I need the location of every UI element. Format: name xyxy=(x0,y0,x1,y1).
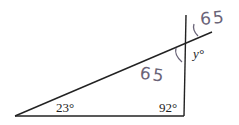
triangle-diagram: 23° 92° y° 65 65 xyxy=(0,0,239,125)
handwritten-arc-outer xyxy=(194,24,199,36)
vertical-line xyxy=(184,15,186,116)
angle-label-y: y° xyxy=(191,46,204,61)
angle-label-23: 23° xyxy=(56,100,74,115)
handwritten-arc-inner xyxy=(176,48,182,62)
handwritten-65-outer: 65 xyxy=(199,6,227,29)
handwritten-65-inner: 65 xyxy=(139,63,167,86)
slanted-line xyxy=(15,32,212,116)
angle-label-92: 92° xyxy=(159,100,177,115)
